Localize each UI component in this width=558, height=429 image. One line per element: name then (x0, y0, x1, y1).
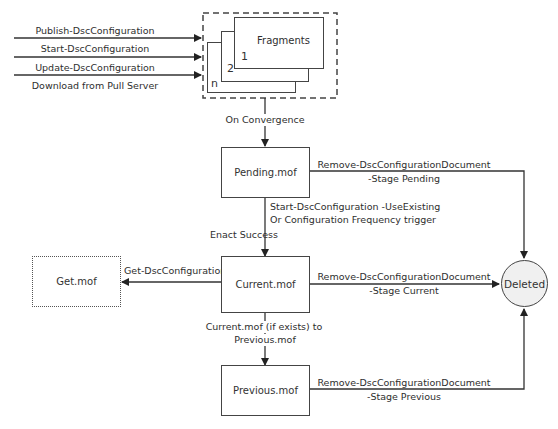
remove-previous-label-line2: -Stage Previous (367, 391, 441, 403)
remove-pending-label-line1: Remove-DscConfigurationDocument (317, 159, 490, 171)
use-existing-label-line2: Or Configuration Frequency trigger (270, 214, 436, 226)
previous-mof-node: Previous.mof (221, 365, 310, 416)
fragment-1-label: 1 (241, 50, 248, 63)
use-existing-label-line1: Start-DscConfiguration -UseExisting (270, 201, 440, 213)
deleted-node: Deleted (501, 260, 548, 307)
current-mof-node: Current.mof (221, 256, 310, 313)
fragment-n-label: n (211, 77, 218, 90)
dsc-configuration-lifecycle-diagram: Publish-DscConfiguration Start-DscConfig… (0, 0, 558, 429)
input-update-label: Update-DscConfiguration (35, 62, 155, 74)
input-download-label: Download from Pull Server (32, 80, 158, 92)
remove-current-label-line1: Remove-DscConfigurationDocument (317, 271, 490, 283)
fragments-title: Fragments (257, 35, 310, 47)
previous-mof-label: Previous.mof (233, 385, 298, 396)
current-to-previous-label-line2: Previous.mof (234, 334, 296, 346)
deleted-label: Deleted (504, 278, 545, 290)
input-publish-label: Publish-DscConfiguration (35, 25, 154, 37)
get-mof-label: Get.mof (56, 276, 96, 287)
fragment-2-label: 2 (227, 62, 234, 75)
get-config-label: Get-DscConfiguration (124, 265, 226, 277)
remove-current-label-line2: -Stage Current (369, 285, 439, 297)
on-convergence-label: On Convergence (225, 114, 304, 126)
fragment-1: Fragments 1 (234, 17, 324, 69)
enact-success-label: Enact Success (210, 229, 278, 241)
get-mof-node: Get.mof (32, 256, 121, 307)
input-start-label: Start-DscConfiguration (41, 43, 150, 55)
pending-mof-label: Pending.mof (234, 167, 297, 178)
remove-previous-label-line1: Remove-DscConfigurationDocument (317, 377, 490, 389)
current-mof-label: Current.mof (235, 279, 295, 290)
pending-mof-node: Pending.mof (221, 147, 310, 198)
current-to-previous-label-line1: Current.mof (if exists) to (206, 321, 323, 333)
remove-pending-label-line2: -Stage Pending (368, 173, 440, 185)
